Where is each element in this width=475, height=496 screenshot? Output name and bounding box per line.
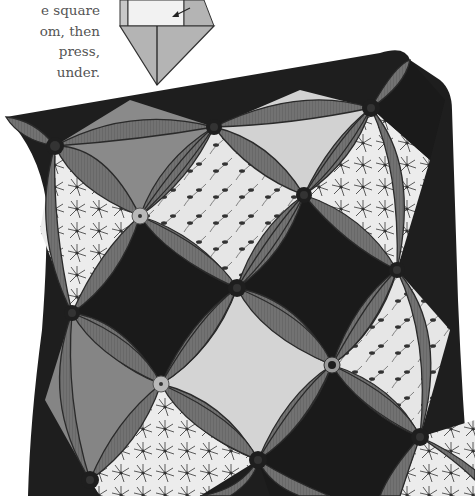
button-icon xyxy=(153,376,169,392)
button-icon xyxy=(389,262,405,278)
button-icon xyxy=(64,305,80,321)
button-icon xyxy=(81,471,99,489)
button-icon xyxy=(411,428,429,446)
button-icon xyxy=(228,279,246,297)
button-icon xyxy=(324,357,340,373)
button-icon xyxy=(362,99,380,117)
quilted-pillow-photo xyxy=(0,0,475,496)
button-icon xyxy=(206,119,222,135)
button-icon xyxy=(249,451,267,469)
button-icon xyxy=(132,208,148,224)
button-icon xyxy=(296,187,312,203)
button-icon xyxy=(46,137,64,155)
